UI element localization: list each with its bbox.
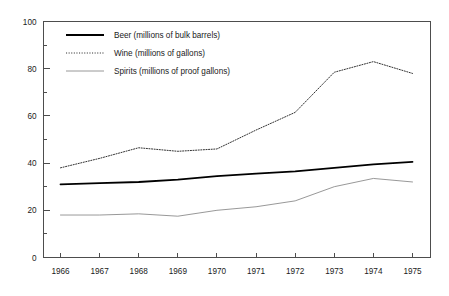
x-axis-tick-label: 1970 xyxy=(208,267,227,276)
x-axis-tick-label: 1967 xyxy=(91,267,110,276)
y-axis-tick-label: 60 xyxy=(27,112,37,121)
y-axis-labels: 100806040200 xyxy=(23,18,37,263)
x-axis-tick-label: 1968 xyxy=(130,267,149,276)
series-line-wine xyxy=(61,62,413,168)
y-axis-tick-label: 100 xyxy=(23,18,37,27)
data-series-layer xyxy=(61,62,413,217)
x-axis-tick-label: 1972 xyxy=(286,267,305,276)
x-axis-tick-label: 1975 xyxy=(403,267,422,276)
chart-legend: Beer (millions of bulk barrels)Wine (mil… xyxy=(66,31,230,76)
y-axis-tick-label: 20 xyxy=(27,206,37,215)
x-axis-tick-label: 1969 xyxy=(169,267,188,276)
x-axis-tick-label: 1974 xyxy=(364,267,383,276)
legend-label-spirits: Spirits (millions of proof gallons) xyxy=(114,67,230,76)
y-axis-tick-label: 40 xyxy=(27,159,37,168)
y-axis-tick-label: 80 xyxy=(27,65,37,74)
plot-frame xyxy=(44,22,431,258)
x-axis-tick-label: 1973 xyxy=(325,267,344,276)
legend-label-wine: Wine (millions of gallons) xyxy=(114,49,205,58)
x-axis-tick-label: 1966 xyxy=(51,267,70,276)
legend-label-beer: Beer (millions of bulk barrels) xyxy=(114,31,220,40)
x-axis-ticks xyxy=(61,253,413,258)
y-axis-tick-label: 0 xyxy=(32,254,37,263)
x-axis-labels: 1966196719681969197019711972197319741975 xyxy=(51,267,422,276)
chart-canvas: 100806040200 196619671968196919701971197… xyxy=(0,0,449,296)
x-axis-tick-label: 1971 xyxy=(247,267,266,276)
y-axis-ticks xyxy=(44,22,50,258)
series-line-spirits xyxy=(61,178,413,216)
line-chart-figure: 100806040200 196619671968196919701971197… xyxy=(0,0,449,296)
